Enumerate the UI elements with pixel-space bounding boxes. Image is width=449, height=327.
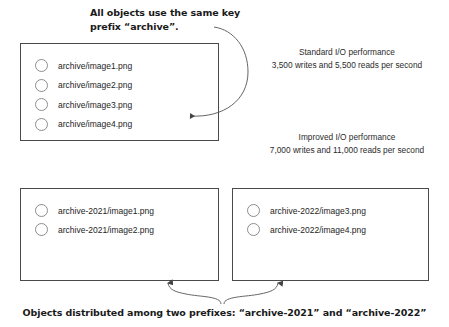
object-key-label: archive/image4.png — [58, 119, 132, 129]
object-key-label: archive-2021/image1.png — [58, 206, 154, 216]
object-key-label: archive/image1.png — [58, 61, 132, 71]
list-item: archive/image1.png — [35, 56, 214, 76]
object-circle-icon — [35, 98, 48, 111]
object-key-label: archive-2021/image2.png — [58, 225, 154, 235]
object-circle-icon — [35, 204, 48, 217]
performance-standard-title: Standard I/O performance — [245, 46, 449, 59]
leader-line-2022 — [224, 283, 278, 304]
object-box-prefix-2022: archive-2022/image3.png archive-2022/ima… — [232, 188, 429, 281]
object-circle-icon — [35, 118, 48, 131]
list-item: archive-2022/image3.png — [247, 201, 424, 220]
list-item: archive-2022/image4.png — [247, 220, 424, 239]
object-circle-icon — [35, 223, 48, 236]
performance-standard-detail: 3,500 writes and 5,500 reads per second — [245, 59, 449, 72]
object-circle-icon — [247, 204, 260, 217]
list-item: archive-2021/image2.png — [35, 220, 214, 239]
object-box-single-prefix: archive/image1.png archive/image2.png ar… — [20, 43, 219, 141]
list-item: archive/image3.png — [35, 95, 214, 115]
object-list-2021: archive-2021/image1.png archive-2021/ima… — [35, 201, 214, 239]
callout-two-prefixes: Objects distributed among two prefixes: … — [0, 306, 449, 319]
object-key-label: archive/image2.png — [58, 80, 132, 90]
object-key-label: archive-2022/image4.png — [270, 225, 366, 235]
diagram-canvas: All objects use the same key prefix “arc… — [0, 0, 449, 327]
object-circle-icon — [35, 59, 48, 72]
performance-note-standard: Standard I/O performance 3,500 writes an… — [245, 46, 449, 71]
list-item: archive-2021/image1.png — [35, 201, 214, 220]
object-key-label: archive/image3.png — [58, 100, 132, 110]
performance-note-improved: Improved I/O performance 7,000 writes an… — [245, 131, 449, 156]
object-list-2022: archive-2022/image3.png archive-2022/ima… — [247, 201, 424, 239]
object-box-prefix-2021: archive-2021/image1.png archive-2021/ima… — [20, 188, 219, 281]
list-item: archive/image2.png — [35, 76, 214, 96]
object-list-single-prefix: archive/image1.png archive/image2.png ar… — [35, 56, 214, 134]
callout-single-prefix: All objects use the same key prefix “arc… — [90, 6, 260, 33]
list-item: archive/image4.png — [35, 115, 214, 135]
object-key-label: archive-2022/image3.png — [270, 206, 366, 216]
object-circle-icon — [35, 79, 48, 92]
leader-line-2021 — [168, 283, 221, 304]
performance-improved-title: Improved I/O performance — [245, 131, 449, 144]
object-circle-icon — [247, 223, 260, 236]
performance-improved-detail: 7,000 writes and 11,000 reads per second — [245, 144, 449, 157]
